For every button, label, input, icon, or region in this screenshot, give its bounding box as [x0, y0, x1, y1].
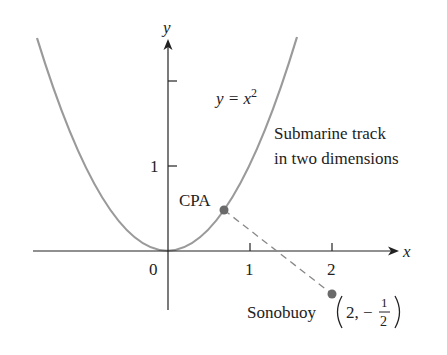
track-label-line2: in two dimensions: [274, 149, 399, 168]
right-paren-icon: [395, 296, 400, 328]
equation-exponent: 2: [251, 86, 257, 100]
y-tick-label-1: 1: [150, 157, 159, 176]
sonobuoy-frac-numerator: 1: [381, 295, 388, 310]
sonobuoy-coord-prefix: 2, −: [346, 303, 373, 322]
sonobuoy-label: Sonobuoy: [247, 303, 316, 322]
track-label-line1: Submarine track: [274, 124, 386, 143]
x-tick-label-0: 0: [149, 260, 158, 279]
left-paren-icon: [338, 296, 343, 328]
diagram-canvas: x y 0 1 2 1 y = x2 Submarine track in tw…: [0, 0, 447, 355]
parabola-curve: [37, 37, 297, 251]
x-tick-label-2: 2: [327, 260, 336, 279]
equation-label: y = x2: [214, 86, 257, 108]
x-axis-label: x: [402, 242, 411, 261]
x-tick-label-1: 1: [245, 260, 254, 279]
cpa-to-sonobuoy-connector: [224, 210, 332, 294]
equation-lhs: y = x: [214, 89, 252, 108]
submarine-track-diagram: x y 0 1 2 1 y = x2 Submarine track in tw…: [0, 0, 447, 355]
cpa-label: CPA: [179, 191, 211, 210]
sonobuoy-frac-denominator: 2: [380, 314, 387, 329]
sonobuoy-point: [328, 290, 337, 299]
y-axis-label: y: [161, 18, 171, 37]
cpa-point: [220, 206, 229, 215]
